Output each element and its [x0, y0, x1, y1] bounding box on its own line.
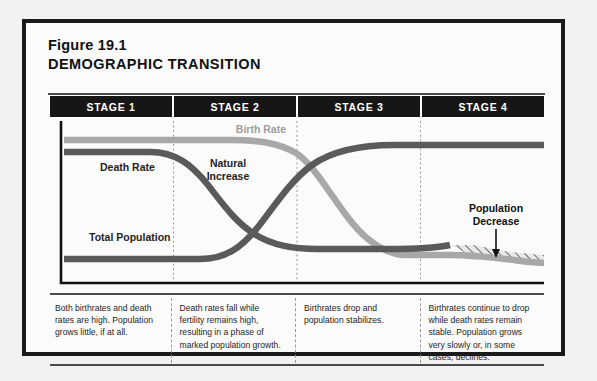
stage-header-4: STAGE 4 [422, 96, 544, 117]
stage-header-2: STAGE 2 [174, 96, 298, 117]
figure-header: Figure 19.1 DEMOGRAPHIC TRANSITION [26, 23, 561, 74]
chart-svg: Birth Rate Death Rate Total Population N… [50, 119, 544, 291]
stage-header-bar: STAGE 1 STAGE 2 STAGE 3 STAGE 4 [50, 96, 544, 117]
death-rate-label: Death Rate [100, 161, 155, 173]
total-population-label: Total Population [89, 231, 170, 243]
caption-bottom-rule [50, 364, 544, 366]
stage-header-1: STAGE 1 [50, 96, 174, 117]
birth-rate-label: Birth Rate [236, 123, 286, 135]
caption-top-rule [50, 293, 544, 295]
natural-increase-label-line2: Increase [207, 170, 250, 182]
stage-header-3: STAGE 3 [298, 96, 422, 117]
stage-caption-3: Birthrates drop and population stabilize… [295, 298, 420, 363]
stage-captions: Both birthrates and death rates are high… [50, 298, 544, 363]
stage-caption-4: Birthrates continue to drop while death … [420, 298, 545, 363]
demographic-transition-chart: Birth Rate Death Rate Total Population N… [50, 119, 544, 291]
figure-number: Figure 19.1 [48, 36, 561, 54]
figure-frame: Figure 19.1 DEMOGRAPHIC TRANSITION STAGE… [22, 19, 565, 356]
title-divider-rule [48, 93, 545, 95]
natural-increase-label-line1: Natural [210, 157, 246, 169]
population-decrease-label-line2: Decrease [473, 215, 520, 227]
stage-caption-2: Death rates fall while fertility remains… [171, 298, 296, 363]
figure-title: DEMOGRAPHIC TRANSITION [48, 55, 561, 74]
population-decrease-label-line1: Population [469, 202, 523, 214]
stage-caption-1: Both birthrates and death rates are high… [50, 298, 171, 363]
